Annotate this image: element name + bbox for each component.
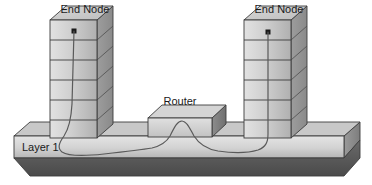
router-label: Router [163, 95, 196, 107]
layer1-diagram: Layer 1 Router [0, 0, 372, 185]
router-block: Router [148, 95, 226, 137]
end-node-left: End Node [50, 3, 113, 138]
end-node-right: End Node [244, 3, 307, 138]
diagram-canvas: Layer 1 Router [0, 0, 372, 185]
end-node-left-label: End Node [61, 3, 110, 15]
layer-1-label: Layer 1 [22, 141, 59, 153]
slab-front-face [14, 136, 344, 158]
end-node-right-label: End Node [255, 3, 304, 15]
